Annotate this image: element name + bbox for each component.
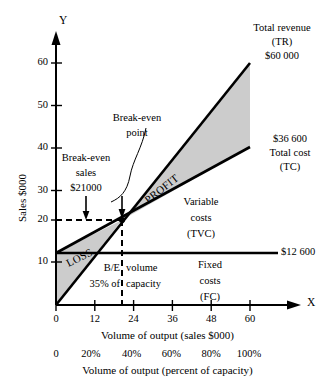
y-tick-label-40: 40 — [20, 141, 48, 152]
fixed-costs-value: $12 600 — [281, 246, 335, 257]
be-volume-label-right-top: volume — [126, 262, 176, 273]
variable-costs-label-line2: costs — [168, 212, 234, 223]
break-even-point-label-line1: Break-even — [102, 112, 172, 123]
total-cost-value: $36 600 — [248, 133, 332, 144]
total-cost-label-line1: Total cost — [248, 147, 332, 158]
x-percent-label-0: 0 — [42, 348, 70, 359]
y-axis-name: Y — [59, 14, 67, 26]
y-tick-label-20: 20 — [20, 213, 48, 224]
x-percent-label-40: 40% — [118, 348, 146, 359]
x-percent-label-100: 100% — [235, 348, 263, 359]
x-tick-label-0: 0 — [42, 313, 70, 324]
x-tick-label-36: 36 — [158, 313, 186, 324]
x-axis-title-sales: Volume of output (sales $000) — [0, 330, 335, 342]
y-tick-label-30: 30 — [20, 184, 48, 195]
be-volume-label-left-bottom: 35% of — [72, 278, 120, 289]
variable-costs-label-line1: Variable — [168, 196, 234, 207]
y-tick-label-50: 50 — [20, 99, 48, 110]
variable-costs-label-line3: (TVC) — [168, 228, 234, 239]
break-even-sales-label-line1: Break-even — [50, 152, 122, 163]
be-volume-label-right-bottom: capacity — [126, 278, 182, 289]
x-tick-label-12: 12 — [81, 313, 109, 324]
x-percent-label-80: 80% — [197, 348, 225, 359]
total-revenue-label-line2: (TR) — [232, 36, 332, 47]
fixed-costs-label-line1: Fixed — [180, 259, 240, 270]
fixed-costs-label-line3: (FC) — [180, 291, 240, 302]
fixed-costs-label-line2: costs — [180, 275, 240, 286]
x-axis-arrowhead — [287, 301, 301, 310]
x-tick-label-48: 48 — [197, 313, 225, 324]
x-axis-title-capacity: Volume of output (percent of capacity) — [0, 365, 335, 377]
break-even-sales-arrow — [83, 196, 90, 220]
x-percent-label-20: 20% — [77, 348, 105, 359]
total-revenue-label-line1: Total revenue — [232, 22, 332, 33]
break-even-chart: Y X Sales $000 60 50 40 30 20 10 0 12 24… — [0, 0, 335, 385]
y-tick-label-10: 10 — [20, 255, 48, 266]
x-tick-label-24: 24 — [120, 313, 148, 324]
x-axis-name: X — [307, 296, 315, 308]
be-volume-label-left-top: B/E — [88, 262, 120, 273]
break-even-sales-label-line2: sales — [50, 167, 122, 178]
x-percent-label-60: 60% — [157, 348, 185, 359]
break-even-point-label-line2: point — [102, 127, 172, 138]
y-axis-arrowhead — [52, 31, 61, 45]
total-cost-label-line2: (TC) — [248, 161, 332, 172]
y-tick-label-60: 60 — [20, 56, 48, 67]
break-even-sales-value: $21000 — [50, 182, 122, 193]
x-tick-label-60: 60 — [236, 313, 264, 324]
total-revenue-value: $60 000 — [232, 50, 332, 61]
